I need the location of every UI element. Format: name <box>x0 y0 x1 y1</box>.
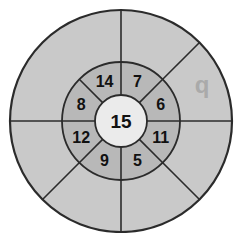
sector-e-se-label: 11 <box>152 129 169 146</box>
sector-w-nw-label: 8 <box>77 96 86 113</box>
sector-n-nw-label: 14 <box>96 73 114 90</box>
wheel-diagram: q7611591281415 <box>0 0 243 233</box>
sector-n-ne-label: 7 <box>133 73 142 90</box>
sector-s-sw-label: 9 <box>100 152 109 169</box>
watermark-q-label: q <box>195 71 210 98</box>
center-value-label: 15 <box>110 111 132 132</box>
sector-w-sw-label: 12 <box>72 129 90 146</box>
diagram-canvas: q7611591281415 <box>0 0 243 233</box>
sector-e-ne-label: 6 <box>156 96 165 113</box>
sector-s-se-label: 5 <box>133 152 142 169</box>
